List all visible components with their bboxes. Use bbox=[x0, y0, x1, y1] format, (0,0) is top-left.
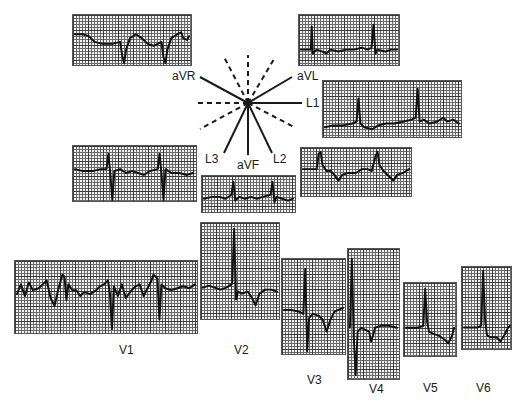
ecg-strip-l1 bbox=[322, 80, 462, 138]
ecg-strip-v6 bbox=[461, 266, 512, 350]
ecg-trace-v1 bbox=[15, 261, 197, 333]
label-v4: V4 bbox=[369, 382, 384, 396]
ecg-strip-v4 bbox=[347, 248, 400, 380]
label-avr: aVR bbox=[172, 69, 195, 83]
axis-avl bbox=[248, 77, 292, 103]
ecg-trace-v6 bbox=[462, 267, 511, 349]
label-l1: L1 bbox=[306, 96, 319, 110]
ecg-strip-v2 bbox=[200, 222, 280, 320]
label-v6: V6 bbox=[476, 381, 491, 395]
axis-avr bbox=[200, 77, 248, 103]
ecg-trace-v5 bbox=[404, 283, 456, 356]
ecg-trace-v4 bbox=[348, 249, 399, 379]
ecg-trace-l3 bbox=[73, 146, 196, 201]
label-v1: V1 bbox=[119, 343, 134, 357]
axis-dashed-lower-right bbox=[248, 103, 294, 127]
label-v3: V3 bbox=[307, 373, 322, 387]
axis-l3 bbox=[224, 103, 248, 153]
ecg-strip-v1 bbox=[14, 260, 198, 334]
ecg-strip-v5 bbox=[403, 282, 457, 357]
label-avf: aVF bbox=[237, 158, 259, 172]
label-l3: L3 bbox=[205, 152, 218, 166]
ecg-strip-v3 bbox=[281, 258, 346, 355]
ecg-trace-v2 bbox=[201, 223, 279, 319]
ecg-trace-avf bbox=[202, 176, 295, 212]
ecg-strip-avf bbox=[201, 175, 296, 213]
ecg-trace-v3 bbox=[282, 259, 345, 354]
axis-l2 bbox=[248, 103, 272, 153]
ecg-strip-l3 bbox=[72, 145, 197, 202]
label-avl: aVL bbox=[297, 69, 318, 83]
ecg-trace-avr bbox=[73, 15, 191, 65]
ecg-trace-l1 bbox=[323, 81, 461, 137]
ecg-strip-avr bbox=[72, 14, 192, 66]
label-v5: V5 bbox=[423, 381, 438, 395]
label-l2: L2 bbox=[273, 152, 286, 166]
label-v2: V2 bbox=[234, 343, 249, 357]
